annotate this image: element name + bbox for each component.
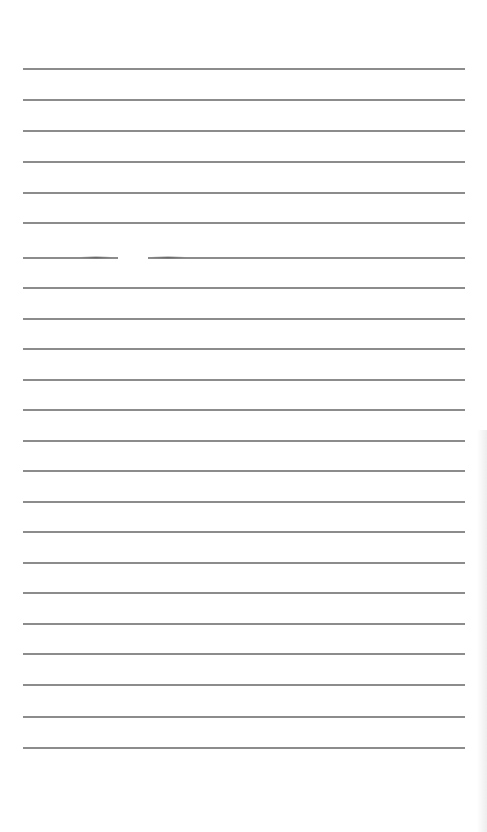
- ruled-line: [23, 348, 465, 350]
- ink-smudge: [80, 256, 112, 259]
- ruled-line: [23, 379, 465, 381]
- ink-smudge: [150, 256, 186, 259]
- ruled-line: [23, 470, 465, 472]
- ruled-line: [23, 222, 465, 224]
- ruled-line: [23, 562, 465, 564]
- ruled-line: [23, 684, 465, 686]
- ruled-line: [23, 409, 465, 411]
- ruled-line: [23, 440, 465, 442]
- ruled-line: [23, 501, 465, 503]
- ruled-line: [23, 653, 465, 655]
- ruled-line: [23, 623, 465, 625]
- page-edge-shadow: [477, 430, 487, 832]
- ruled-line: [23, 592, 465, 594]
- ruled-line: [23, 747, 465, 749]
- ruled-line: [23, 716, 465, 718]
- ruled-line: [23, 257, 465, 259]
- ruled-line: [23, 192, 465, 194]
- ruled-line: [23, 161, 465, 163]
- ruled-line-segment: [148, 257, 465, 259]
- ruled-line: [23, 287, 465, 289]
- lined-paper-page: [0, 0, 487, 832]
- ruled-line: [23, 318, 465, 320]
- ruled-line: [23, 68, 465, 70]
- ruled-line: [23, 99, 465, 101]
- ruled-line: [23, 531, 465, 533]
- ruled-line: [23, 130, 465, 132]
